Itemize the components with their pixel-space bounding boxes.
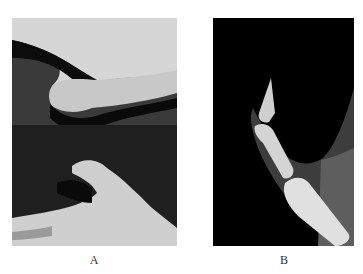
- thumb-xray-image: [213, 18, 354, 246]
- panel-b-radiograph: [213, 18, 354, 246]
- panel-a-label: A: [84, 253, 104, 268]
- panel-b-label: B: [274, 253, 294, 268]
- panel-a-photograph: [12, 18, 177, 246]
- thumb-photo-image: [12, 18, 177, 246]
